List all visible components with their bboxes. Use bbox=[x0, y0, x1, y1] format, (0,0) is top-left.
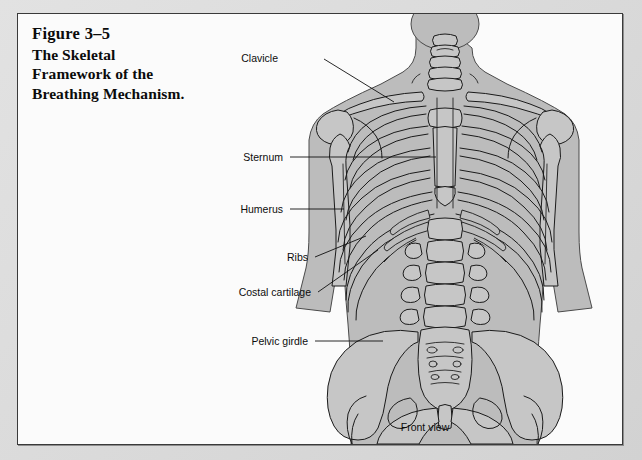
label-sternum: Sternum bbox=[243, 151, 283, 163]
label-clavicle: Clavicle bbox=[241, 52, 278, 64]
label-ribs: Ribs bbox=[287, 251, 308, 263]
figure-page: Figure 3–5 The Skeletal Framework of the… bbox=[0, 0, 642, 460]
label-humerus: Humerus bbox=[240, 203, 283, 215]
figure-plate: Figure 3–5 The Skeletal Framework of the… bbox=[17, 13, 623, 445]
skeleton-illustration: Clavicle Sternum Humerus Ribs Costal car… bbox=[18, 14, 622, 444]
label-costal-cartilage: Costal cartilage bbox=[239, 286, 312, 298]
view-caption: Front view bbox=[401, 421, 450, 433]
label-pelvic-girdle: Pelvic girdle bbox=[251, 335, 308, 347]
